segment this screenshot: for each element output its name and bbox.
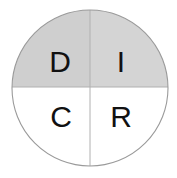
quadrant-label-top-right: I (117, 45, 125, 78)
quadrant-top-right-fill (90, 0, 177, 87)
quadrant-fills (0, 0, 177, 178)
quadrant-label-bottom-left: C (50, 100, 72, 133)
quadrant-label-top-left: D (49, 45, 71, 78)
quadrant-circle-diagram: D I C R (0, 0, 177, 178)
quadrant-label-bottom-right: R (110, 100, 132, 133)
figure-root: D I C R (0, 0, 177, 178)
